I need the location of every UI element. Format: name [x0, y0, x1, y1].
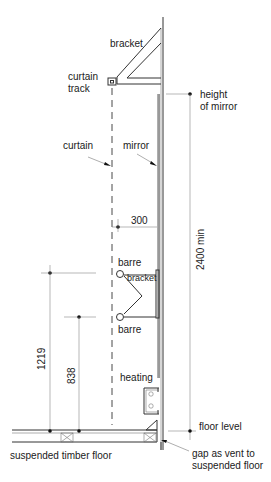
- wall-section-diagram: bracket curtain track height of mirror c…: [0, 0, 271, 482]
- label-suspended-timber-floor: suspended timber floor: [10, 450, 112, 461]
- label-heating: heating: [120, 372, 153, 383]
- heating-unit: [144, 388, 159, 414]
- label-dimension-300: 300: [131, 215, 148, 226]
- upper-barre-icon: [117, 271, 124, 278]
- lower-barre-icon: [117, 314, 124, 321]
- label-barre-upper: barre: [118, 257, 142, 268]
- gap-vent-leader: [161, 440, 189, 451]
- floor-level-marker: [168, 429, 196, 433]
- label-dimension-2400-min: 2400 min: [195, 229, 206, 270]
- label-floor-level: floor level: [199, 421, 242, 432]
- label-curtain-track-2: track: [68, 83, 91, 94]
- label-curtain-track-1: curtain: [68, 71, 98, 82]
- label-height-of-mirror-1: height: [200, 89, 227, 100]
- suspended-timber-floor: [12, 429, 161, 450]
- mirror-leader: [137, 154, 157, 166]
- label-dimension-838: 838: [66, 367, 77, 384]
- mirror-panel: [158, 94, 160, 378]
- dimension-1219: [41, 265, 96, 430]
- label-mirror: mirror: [123, 140, 150, 151]
- label-curtain: curtain: [63, 140, 93, 151]
- curtain-track-bracket: [117, 28, 161, 84]
- height-of-mirror-marker: [166, 92, 192, 440]
- label-dimension-1219: 1219: [36, 347, 47, 370]
- curtain-track-icon: [108, 78, 116, 85]
- label-gap-vent-1: gap as vent to: [192, 448, 255, 459]
- label-barre-bracket: bracket: [127, 273, 157, 283]
- wall: [161, 17, 163, 450]
- label-barre-lower: barre: [118, 324, 142, 335]
- label-gap-vent-2: suspended floor: [192, 460, 264, 471]
- label-bracket: bracket: [110, 38, 143, 49]
- label-height-of-mirror-2: of mirror: [200, 101, 238, 112]
- curtain-leader: [88, 157, 111, 166]
- skirting: [146, 420, 157, 430]
